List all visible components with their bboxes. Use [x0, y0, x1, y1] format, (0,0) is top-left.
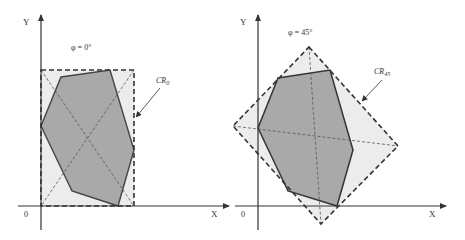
- diagram-canvas: Y X 0 φ = 0° CR0 Y X 0 φ = 45° CR45: [0, 0, 465, 240]
- y-axis-label: Y: [23, 17, 30, 27]
- origin-label: 0: [241, 210, 245, 219]
- origin-label: 0: [24, 210, 28, 219]
- region-pointer-arrow: [363, 80, 382, 100]
- panel-phi-45: Y X 0 φ = 45° CR45: [233, 15, 446, 230]
- angle-label: φ = 45°: [288, 28, 312, 37]
- x-axis-label: X: [211, 209, 218, 219]
- y-axis-label: Y: [240, 17, 247, 27]
- angle-label: φ = 0°: [71, 43, 91, 52]
- region-label-cr45: CR45: [374, 67, 390, 77]
- region-label-cr0: CR0: [156, 76, 169, 86]
- panel-phi-0: Y X 0 φ = 0° CR0: [18, 15, 229, 230]
- x-axis-label: X: [429, 209, 436, 219]
- region-pointer-arrow: [137, 88, 160, 116]
